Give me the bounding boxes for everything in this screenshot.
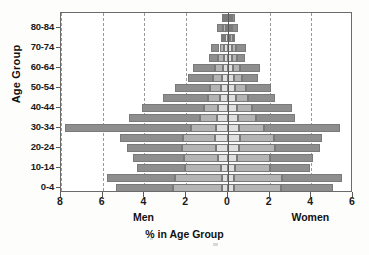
- scan-speck: [213, 243, 218, 246]
- x-tick-label: 4: [295, 195, 325, 207]
- bar-segment-outer: [237, 54, 244, 62]
- men-group-label: Men: [103, 211, 183, 223]
- zero-axis-line: [228, 13, 229, 191]
- bar-segment-inner: [228, 94, 236, 102]
- bar-women-20-24: [61, 144, 351, 152]
- bar-segment-inner: [228, 124, 239, 132]
- bar-segment-middle: [234, 74, 242, 82]
- bar-segment-inner: [228, 84, 235, 92]
- scan-speck: [150, 238, 153, 240]
- bar-women-40-44: [61, 104, 351, 112]
- bar-segment-inner: [228, 154, 237, 162]
- bar-segment-middle: [239, 144, 274, 152]
- women-group-label: Women: [270, 211, 350, 223]
- bar-segment-middle: [234, 184, 281, 192]
- bar-segment-middle: [235, 164, 269, 172]
- x-tick-label: 8: [45, 195, 75, 207]
- bar-segment-outer: [240, 64, 260, 72]
- bar-segment-outer: [274, 134, 322, 142]
- bar-segment-middle: [235, 84, 245, 92]
- bar-women-0-4: [61, 184, 351, 192]
- bar-segment-inner: [228, 114, 238, 122]
- population-pyramid-figure: Age Group 864202460-410-1420-2430-3440-4…: [0, 0, 369, 255]
- bar-segment-middle: [237, 104, 252, 112]
- bar-segment-outer: [233, 34, 235, 42]
- bar-women-30-34: [61, 124, 351, 132]
- bar-segment-outer: [252, 104, 293, 112]
- y-tick-label: 0-4: [8, 181, 54, 192]
- plot-area: [60, 12, 352, 192]
- y-tick-label: 40-44: [8, 101, 54, 112]
- y-tick-mark: [56, 67, 60, 68]
- y-axis-title: Age Group: [10, 14, 22, 134]
- y-tick-mark: [56, 47, 60, 48]
- y-tick-mark: [56, 127, 60, 128]
- bar-segment-outer: [270, 154, 314, 162]
- bar-segment-outer: [232, 14, 235, 22]
- bar-segment-middle: [233, 64, 240, 72]
- bar-segment-outer: [248, 94, 275, 102]
- bar-segment-outer: [232, 24, 237, 32]
- y-tick-label: 50-54: [8, 81, 54, 92]
- x-tick-label: 0: [212, 195, 242, 207]
- bar-segment-inner: [228, 144, 239, 152]
- bar-women-80-84: [61, 24, 351, 32]
- bar-women-55-59: [61, 74, 351, 82]
- bar-women-50-54: [61, 84, 351, 92]
- bar-women-65-69: [61, 54, 351, 62]
- bar-segment-outer: [270, 164, 311, 172]
- bar-segment-outer: [275, 144, 320, 152]
- bar-women-15-19: [61, 154, 351, 162]
- bar-women-10-14: [61, 164, 351, 172]
- bar-segment-middle: [237, 154, 269, 162]
- bar-women-5-9: [61, 174, 351, 182]
- bar-segment-inner: [228, 164, 235, 172]
- y-tick-mark: [56, 167, 60, 168]
- bar-segment-middle: [236, 94, 247, 102]
- x-tick-label: 6: [337, 195, 367, 207]
- bar-women-75-79: [61, 34, 351, 42]
- y-tick-mark: [56, 107, 60, 108]
- bar-women-85+: [61, 14, 351, 22]
- bar-segment-outer: [246, 84, 271, 92]
- y-tick-label: 30-34: [8, 121, 54, 132]
- y-tick-mark: [56, 147, 60, 148]
- bar-segment-outer: [236, 44, 245, 52]
- y-tick-mark: [56, 87, 60, 88]
- bar-segment-middle: [239, 124, 264, 132]
- bar-segment-outer: [264, 124, 340, 132]
- bar-segment-middle: [240, 134, 273, 142]
- y-tick-label: 20-24: [8, 141, 54, 152]
- y-tick-mark: [56, 27, 60, 28]
- bar-segment-outer: [281, 184, 333, 192]
- x-tick-label: 6: [87, 195, 117, 207]
- x-tick-label: 2: [170, 195, 200, 207]
- bar-women-45-49: [61, 94, 351, 102]
- y-tick-mark: [56, 187, 60, 188]
- bar-segment-middle: [234, 174, 282, 182]
- bar-segment-outer: [256, 114, 295, 122]
- y-tick-label: 60-64: [8, 61, 54, 72]
- y-tick-label: 70-74: [8, 41, 54, 52]
- y-tick-label: 80-84: [8, 21, 54, 32]
- bar-women-60-64: [61, 64, 351, 72]
- bar-segment-inner: [228, 104, 237, 112]
- bar-segment-inner: [228, 134, 241, 142]
- y-tick-label: 10-14: [8, 161, 54, 172]
- x-axis-title: % in Age Group: [0, 228, 369, 240]
- bar-segment-middle: [238, 114, 256, 122]
- bar-women-70-74: [61, 44, 351, 52]
- bar-segment-outer: [282, 174, 341, 182]
- bar-women-25-29: [61, 134, 351, 142]
- x-tick-label: 2: [254, 195, 284, 207]
- bar-women-35-39: [61, 114, 351, 122]
- x-tick-label: 4: [128, 195, 158, 207]
- bar-segment-outer: [242, 74, 258, 82]
